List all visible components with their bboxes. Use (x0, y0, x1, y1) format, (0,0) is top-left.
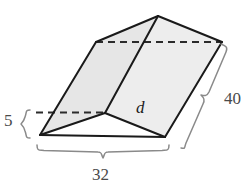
brace-height-5 (21, 110, 30, 138)
brace-width-32 (37, 145, 169, 158)
dimension-label-32: 32 (92, 166, 109, 183)
geometry-figure: 5 32 40 d (0, 0, 251, 195)
dimension-label-5: 5 (4, 112, 13, 129)
solid-diagram-svg (0, 0, 251, 195)
dimension-label-40: 40 (224, 90, 241, 107)
solid-faces (40, 16, 222, 137)
diagonal-label-d: d (136, 99, 145, 116)
